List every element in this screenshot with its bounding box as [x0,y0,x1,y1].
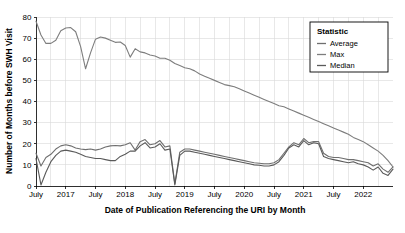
x-axis-title: Date of Publication Referencing the URI … [105,205,306,215]
y-tick-label: 70 [23,34,32,43]
y-tick-label: 40 [23,97,32,106]
legend-title: Statistic [317,27,349,36]
y-tick-label: 50 [23,76,32,85]
legend-label-max[interactable]: Max [330,50,344,59]
legend[interactable]: StatisticAverageMaxMedian [310,22,388,72]
legend-label-median[interactable]: Median [330,61,355,70]
x-tick-label: July [207,190,221,199]
legend-label-average[interactable]: Average [330,39,358,48]
x-tick-label: July [267,190,281,199]
y-tick-label: 80 [23,13,32,22]
x-tick-label: 2018 [116,190,134,199]
x-tick-label: 2019 [176,190,194,199]
x-tick-label: 2022 [354,190,372,199]
chart-figure: 01020304050607080 July2017July2018July20… [0,0,405,233]
x-tick-label: July [88,190,102,199]
x-axis: July2017July2018July2019July2020July2021… [29,186,393,199]
y-tick-label: 20 [23,140,32,149]
y-axis: 01020304050607080 [23,13,36,191]
x-tick-label: July [148,190,162,199]
y-tick-label: 10 [23,161,32,170]
line-chart: 01020304050607080 July2017July2018July20… [0,0,405,233]
x-tick-label: 2020 [235,190,253,199]
y-tick-label: 60 [23,55,32,64]
x-tick-label: 2021 [295,190,313,199]
x-tick-label: 2017 [57,190,75,199]
x-tick-label: July [326,190,340,199]
y-tick-label: 30 [23,118,32,127]
y-axis-title: Number of Months before SWH Visit [4,28,14,174]
x-tick-label: July [29,190,43,199]
